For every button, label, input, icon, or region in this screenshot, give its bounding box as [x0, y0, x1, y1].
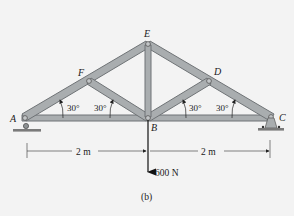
angle-label-a: 30°	[67, 103, 80, 113]
truss-members	[22, 41, 274, 121]
dimension-label-ab: 2 m	[76, 147, 91, 157]
member-eb	[145, 45, 151, 117]
joint-label-e: E	[143, 28, 150, 39]
roller-support-a	[13, 123, 41, 131]
angle-label-c: 30°	[216, 103, 229, 113]
pin-b	[146, 116, 151, 121]
load-label: 600 N	[155, 168, 179, 178]
pin-a	[23, 116, 28, 121]
angle-label-b-left: 30°	[94, 103, 107, 113]
joint-label-c: C	[279, 112, 286, 123]
joint-label-f: F	[77, 67, 85, 78]
joint-label-a: A	[9, 113, 17, 124]
joint-label-b: B	[151, 122, 157, 133]
pin-d	[207, 79, 212, 84]
truss-diagram: 30° 30° 30° 30° A B C D E F 2 m 2 m 600 …	[0, 0, 294, 216]
dimension-label-bc: 2 m	[201, 147, 216, 157]
figure-caption: (b)	[141, 192, 152, 203]
angle-label-b-right: 30°	[189, 103, 202, 113]
joint-label-d: D	[213, 66, 222, 77]
pin-f	[87, 79, 92, 84]
pin-e	[146, 42, 151, 47]
